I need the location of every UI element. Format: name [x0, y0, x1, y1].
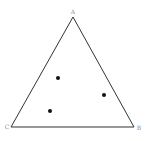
point-3	[48, 109, 52, 113]
vertex-label-a: A	[70, 8, 76, 15]
triangle-outline	[11, 17, 134, 127]
point-1	[56, 76, 60, 80]
vertex-label-c: C	[5, 123, 10, 130]
triangle-diagram: A B C	[0, 0, 146, 141]
point-2	[102, 93, 106, 97]
vertex-label-b: B	[137, 124, 142, 131]
